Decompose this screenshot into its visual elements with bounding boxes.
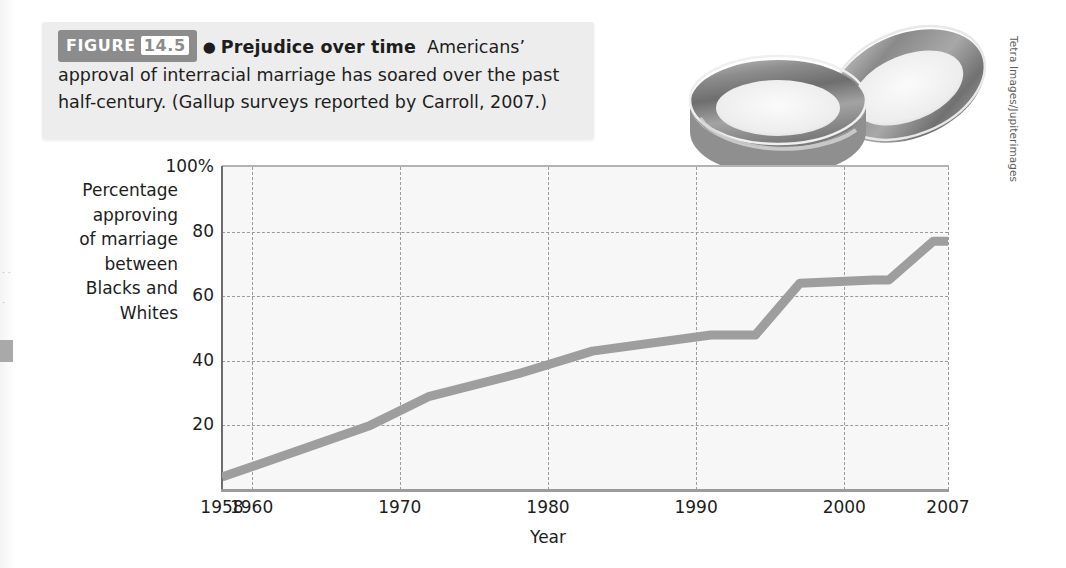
- x-axis-tick-label: 2000: [823, 497, 866, 517]
- x-axis-label-text: Year: [530, 527, 566, 547]
- x-axis-tick-label: 2007: [926, 497, 969, 517]
- y-axis-tick-label: 20: [154, 414, 214, 434]
- x-axis-tick-label: 1970: [378, 497, 421, 517]
- x-axis-tick-label: 1990: [674, 497, 717, 517]
- data-series-line: [222, 167, 948, 490]
- line-chart: Percentageapprovingof marriagebetweenBla…: [0, 0, 1066, 568]
- x-axis-tick-label: 1980: [526, 497, 569, 517]
- x-axis-tick-labels: 1958196019701980199020002007: [0, 497, 1066, 523]
- y-axis-tick-labels: 20406080100%: [150, 0, 214, 568]
- y-axis-tick-label: 40: [154, 350, 214, 370]
- y-axis-tick-label: 100%: [154, 156, 214, 176]
- y-axis-tick-label: 60: [154, 285, 214, 305]
- x-axis-tick-label: 1960: [230, 497, 273, 517]
- vertical-gridline: [948, 167, 949, 490]
- x-axis-label: Year: [0, 527, 1066, 547]
- y-axis-tick-label: 80: [154, 221, 214, 241]
